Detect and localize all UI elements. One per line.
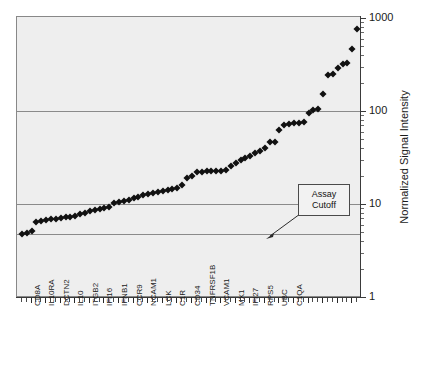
- y-axis-minor-tick: [361, 46, 364, 47]
- x-axis-tick: [342, 298, 343, 302]
- y-axis-minor-tick: [361, 148, 364, 149]
- x-axis-tick: [254, 298, 255, 302]
- x-axis-label-ifi27: IFI27: [252, 288, 260, 306]
- x-axis-tick: [259, 298, 260, 302]
- x-axis-tick: [327, 298, 328, 302]
- y-axis-minor-tick: [361, 225, 364, 226]
- x-axis-tick: [210, 298, 211, 302]
- x-axis-label-cd34: CD34: [194, 286, 202, 306]
- x-axis-tick: [337, 298, 338, 303]
- data-point: [271, 138, 278, 145]
- x-axis-label-rps5: RPS5: [267, 285, 275, 306]
- x-axis-tick: [35, 298, 36, 302]
- x-axis-tick: [351, 298, 352, 303]
- chart-figure: Normalized Signal Intensity Assay Cutoff…: [0, 0, 433, 375]
- y-axis-label-1: 1: [369, 291, 375, 302]
- x-axis-tick: [50, 298, 51, 302]
- x-axis-tick: [230, 298, 231, 302]
- y-axis-minor-tick: [361, 27, 364, 28]
- x-axis-tick: [45, 298, 46, 303]
- x-axis-tick: [201, 298, 202, 302]
- x-axis-label-ifnb1: IFNB1: [121, 283, 129, 306]
- x-axis-tick: [113, 298, 114, 302]
- x-axis-label-cd8a: CD8A: [34, 285, 42, 306]
- x-axis-tick: [283, 298, 284, 302]
- x-axis-tick: [26, 298, 27, 302]
- y-axis-minor-tick: [361, 55, 364, 56]
- x-axis-tick: [94, 298, 95, 302]
- x-axis-tick: [118, 298, 119, 303]
- y-axis-minor-tick: [361, 132, 364, 133]
- x-axis-tick: [40, 298, 41, 302]
- x-axis-tick: [196, 298, 197, 302]
- x-axis-tick: [274, 298, 275, 302]
- y-axis-line: [360, 16, 361, 297]
- data-point: [179, 181, 186, 188]
- y-axis-label-1000: 1000: [369, 12, 393, 23]
- y-axis-minor-tick: [361, 125, 364, 126]
- x-axis-label-c1qa: C1QA: [296, 284, 304, 306]
- y-axis-minor-tick: [361, 115, 364, 116]
- x-axis-tick: [60, 298, 61, 303]
- x-axis-tick: [171, 298, 172, 302]
- x-axis-tick: [186, 298, 187, 302]
- y-axis-tick-1000: [361, 18, 366, 19]
- x-axis-tick: [69, 298, 70, 302]
- x-axis-tick: [317, 298, 318, 302]
- x-axis-tick: [157, 298, 158, 302]
- x-axis-tick: [55, 298, 56, 302]
- x-axis-tick: [99, 298, 100, 302]
- y-axis-minor-tick: [361, 160, 364, 161]
- y-axis-minor-tick: [361, 253, 364, 254]
- y-axis-minor-tick: [361, 241, 364, 242]
- x-axis-tick: [220, 298, 221, 303]
- x-axis-tick: [142, 298, 143, 302]
- x-axis-tick: [269, 298, 270, 302]
- x-axis-tick: [181, 298, 182, 302]
- x-axis-tick: [322, 298, 323, 303]
- y-axis-minor-tick: [361, 120, 364, 121]
- x-axis-tick: [84, 298, 85, 302]
- y-axis-minor-tick: [361, 232, 364, 233]
- x-axis-tick: [298, 298, 299, 302]
- assay-cutoff-line1: Assay: [312, 189, 337, 200]
- y-axis-minor-tick: [361, 22, 364, 23]
- x-axis-tick: [152, 298, 153, 302]
- y-axis-minor-tick: [361, 32, 364, 33]
- data-point: [329, 71, 336, 78]
- x-axis-tick: [21, 298, 22, 302]
- x-axis-tick: [191, 298, 192, 303]
- x-axis-tick: [206, 298, 207, 303]
- x-axis-tick: [293, 298, 294, 303]
- x-axis-tick: [31, 298, 32, 303]
- data-point: [320, 91, 327, 98]
- y-axis-title: Normalized Signal Intensity: [398, 42, 410, 272]
- y-axis-minor-tick: [361, 39, 364, 40]
- data-point: [222, 167, 229, 174]
- x-axis-tick: [215, 298, 216, 302]
- y-axis-tick-10: [361, 204, 366, 205]
- y-axis-minor-tick: [361, 176, 364, 177]
- data-point: [344, 59, 351, 66]
- data-point: [349, 45, 356, 52]
- y-axis-tick-1: [361, 297, 366, 298]
- assay-cutoff-line: [17, 234, 360, 235]
- x-axis-tick: [65, 298, 66, 302]
- x-axis-tick: [264, 298, 265, 303]
- x-axis-tick: [312, 298, 313, 302]
- y-axis-minor-tick: [361, 269, 364, 270]
- x-axis-tick: [332, 298, 333, 302]
- x-axis-tick: [133, 298, 134, 303]
- plot-area: [16, 16, 361, 297]
- y-axis-minor-tick: [361, 208, 364, 209]
- x-axis-tick: [244, 298, 245, 302]
- assay-cutoff-callout: Assay Cutoff: [298, 184, 350, 216]
- x-axis-tick: [303, 298, 304, 302]
- x-axis-label-itgb2: ITGB2: [92, 283, 100, 306]
- y-axis-minor-tick: [361, 218, 364, 219]
- y-axis-label-10: 10: [369, 198, 381, 209]
- x-axis-tick: [123, 298, 124, 302]
- data-point: [276, 126, 283, 133]
- x-axis-tick: [288, 298, 289, 302]
- x-axis-tick: [346, 298, 347, 302]
